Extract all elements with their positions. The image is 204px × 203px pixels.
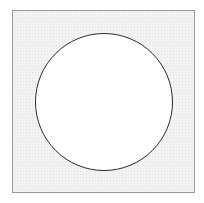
circle-shape	[35, 33, 173, 171]
